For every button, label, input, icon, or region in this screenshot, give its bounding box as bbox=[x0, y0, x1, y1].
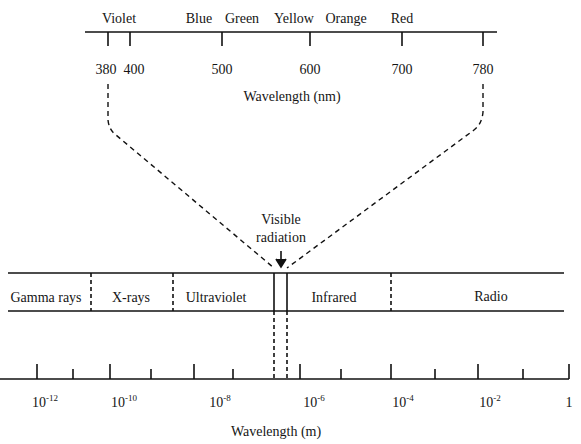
m-tick-1e-10: 10-10 bbox=[111, 395, 137, 411]
m-tick-1e-8: 10-8 bbox=[209, 395, 231, 411]
color-label-blue: Blue bbox=[186, 11, 212, 27]
nm-tick-600: 600 bbox=[300, 62, 321, 78]
m-tick-1e-4: 10-4 bbox=[392, 395, 414, 411]
color-label-red: Red bbox=[391, 11, 414, 27]
visible-arrow-icon bbox=[276, 251, 286, 267]
color-label-yellow: Yellow bbox=[274, 11, 314, 27]
color-label-violet: Violet bbox=[102, 11, 136, 27]
m-tick-1: 1 bbox=[566, 395, 573, 411]
visible-radiation-label-line1: Visible bbox=[261, 212, 301, 228]
nm-tick-380: 380 bbox=[96, 62, 117, 78]
visible-radiation-label-line2: radiation bbox=[256, 230, 306, 246]
color-label-green: Green bbox=[225, 11, 259, 27]
nm-tick-780: 780 bbox=[473, 62, 494, 78]
visible-band-borders bbox=[274, 273, 287, 311]
band-label-gamma-rays: Gamma rays bbox=[10, 290, 81, 306]
band-label-ultraviolet: Ultraviolet bbox=[186, 290, 247, 306]
m-tick-1e-12: 10-12 bbox=[32, 395, 58, 411]
wavelength-axis-major-ticks bbox=[37, 364, 569, 379]
band-label-x-rays: X-rays bbox=[112, 290, 150, 306]
axis-label-m: Wavelength (m) bbox=[231, 424, 321, 440]
visible-axis-ticks bbox=[108, 32, 483, 46]
wavelength-axis-minor-ticks bbox=[73, 369, 523, 379]
nm-tick-400: 400 bbox=[124, 62, 145, 78]
band-label-infrared: Infrared bbox=[311, 290, 356, 306]
nm-tick-500: 500 bbox=[212, 62, 233, 78]
m-tick-1e-2: 10-2 bbox=[479, 395, 501, 411]
nm-tick-700: 700 bbox=[392, 62, 413, 78]
m-tick-1e-6: 10-6 bbox=[303, 395, 325, 411]
color-label-orange: Orange bbox=[325, 11, 366, 27]
band-label-radio: Radio bbox=[474, 289, 507, 305]
visible-band-projection bbox=[274, 311, 287, 379]
axis-label-nm: Wavelength (nm) bbox=[243, 89, 340, 105]
